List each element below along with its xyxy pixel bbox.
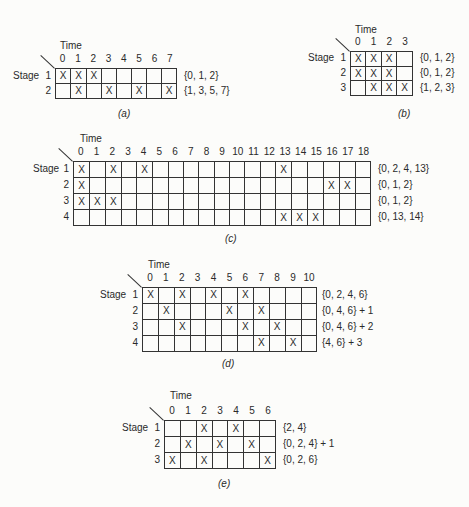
grid-cell: [117, 69, 132, 84]
grid-cell: [158, 319, 174, 335]
grid-cell: X: [253, 335, 269, 351]
grid-cell: [212, 421, 228, 437]
grid-cell: [199, 194, 214, 210]
grid-row: XXX: [165, 453, 276, 469]
time-column-header: 6: [167, 146, 183, 157]
grid-cell: [105, 210, 121, 226]
grid-cell: [121, 162, 136, 178]
grid-cell: [269, 335, 285, 351]
grid-cell: [269, 288, 285, 304]
grid-row: XXX: [351, 81, 413, 96]
reservation-grid: XXXXXXXXXXXX: [142, 287, 317, 352]
grid-cell: [228, 437, 244, 453]
grid-cell: [121, 178, 136, 194]
grid-row: XXX: [74, 178, 371, 194]
grid-cell: [89, 210, 105, 226]
grid-cell: [206, 335, 222, 351]
forbidden-latency-set: {0, 1, 2}: [184, 70, 218, 81]
grid-cell: [190, 319, 205, 335]
grid-cell: X: [161, 84, 176, 99]
grid-cell: [212, 453, 228, 469]
grid-cell: [269, 303, 285, 319]
grid-cell: X: [206, 288, 222, 304]
grid-cell: [260, 162, 275, 178]
time-column-header: 3: [190, 272, 206, 283]
grid-cell: [339, 162, 355, 178]
reservation-grid: XXXXXXXXXXXXX: [73, 161, 371, 226]
grid-cell: X: [74, 178, 90, 194]
time-column-header: 1: [366, 36, 382, 47]
corner-diagonal-line: [58, 148, 73, 162]
time-column-header: 9: [214, 146, 230, 157]
grid-cell: X: [381, 52, 396, 67]
grid-cell: [168, 162, 183, 178]
grid-cell: X: [165, 453, 181, 469]
time-axis-label: Time: [60, 40, 82, 51]
grid-cell: X: [86, 69, 101, 84]
time-column-header: 14: [293, 146, 309, 157]
time-column-header: 3: [397, 36, 413, 47]
grid-cell: [323, 162, 339, 178]
grid-cell: [153, 194, 168, 210]
grid-row: XXX: [143, 303, 317, 319]
time-column-header: 2: [381, 36, 397, 47]
grid-cell: X: [221, 303, 237, 319]
time-column-header: 0: [164, 405, 180, 416]
grid-cell: X: [351, 52, 366, 67]
grid-cell: [308, 194, 324, 210]
grid-cell: [245, 210, 260, 226]
time-column-header: 3: [120, 146, 136, 157]
grid-cell: [174, 335, 190, 351]
grid-cell: [253, 288, 269, 304]
grid-row: XXX: [56, 69, 177, 84]
time-column-header: 5: [244, 405, 260, 416]
forbidden-latency-set: {1, 3, 5, 7}: [184, 85, 230, 96]
grid-cell: [206, 303, 222, 319]
grid-row: XXXX: [74, 162, 371, 178]
grid-cell: X: [212, 437, 228, 453]
grid-cell: [143, 319, 159, 335]
time-column-header: 0: [350, 36, 366, 47]
time-column-header: 15: [309, 146, 325, 157]
time-column-header: 4: [136, 146, 152, 157]
grid-cell: X: [228, 421, 244, 437]
stage-row-header: 3: [334, 82, 346, 93]
forbidden-latency-set: {4, 6} + 3: [322, 337, 362, 348]
grid-cell: [260, 437, 276, 453]
grid-cell: X: [244, 437, 260, 453]
grid-cell: X: [158, 303, 174, 319]
grid-cell: [153, 162, 168, 178]
forbidden-latency-set: {2, 4}: [283, 422, 306, 433]
grid-cell: X: [292, 210, 308, 226]
grid-cell: [260, 178, 275, 194]
grid-cell: [276, 178, 292, 194]
figure-caption: (c): [225, 233, 237, 244]
time-column-header: 5: [152, 146, 168, 157]
grid-cell: [245, 178, 260, 194]
time-column-header: 4: [116, 53, 131, 64]
grid-cell: [147, 69, 162, 84]
forbidden-latency-set: {0, 1, 2}: [420, 52, 454, 63]
grid-cell: [230, 162, 245, 178]
stage-row-header: 1: [126, 289, 138, 300]
corner-diagonal-line: [335, 38, 350, 52]
grid-cell: [132, 69, 147, 84]
stage-row-header: 1: [334, 52, 346, 63]
grid-cell: [180, 421, 196, 437]
grid-cell: [199, 162, 214, 178]
time-column-header: 17: [340, 146, 356, 157]
grid-cell: [161, 69, 176, 84]
stage-row-header: 1: [57, 163, 69, 174]
time-column-header: 13: [277, 146, 293, 157]
time-column-header: 2: [196, 405, 212, 416]
figure-caption: (e): [218, 478, 230, 489]
grid-cell: [228, 453, 244, 469]
figure-caption: (d): [222, 358, 234, 369]
grid-row: XXXX: [143, 288, 317, 304]
grid-cell: X: [102, 84, 117, 99]
forbidden-latency-set: {0, 2, 4} + 1: [283, 438, 334, 449]
grid-cell: [214, 210, 229, 226]
grid-cell: X: [196, 453, 212, 469]
forbidden-latency-set: {0, 1, 2}: [378, 195, 412, 206]
time-axis-label: Time: [80, 133, 102, 144]
